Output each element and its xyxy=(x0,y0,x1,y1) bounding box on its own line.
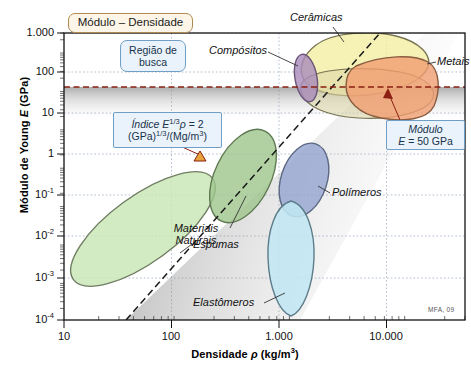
y-tick-1e-3-base: 10 xyxy=(35,271,47,283)
label-polimeros: Polímeros xyxy=(332,186,382,198)
material-index-line2: (GPa)1/3/(Mg/m3) xyxy=(128,130,207,142)
y-tick-1: 1 xyxy=(8,147,54,159)
y-tick-1e-1-base: 10 xyxy=(35,188,47,200)
x-axis-title-suffix: (kg/m xyxy=(258,348,291,360)
search-region-line2: busca xyxy=(139,56,167,68)
y-tick-1e-3: 10-3 xyxy=(8,271,54,283)
y-tick-1e-4-base: 10 xyxy=(35,313,47,325)
material-index-exp: 1/3 xyxy=(169,116,179,125)
label-espumas: Espumas xyxy=(193,238,239,250)
y-tick-100: 100 xyxy=(8,65,54,77)
modulus-constraint-callout[interactable]: Módulo E = 50 GPa xyxy=(386,120,465,150)
material-index-unit-b: /(Mg/m xyxy=(167,130,200,142)
y-tick-1e-1: 10-1 xyxy=(8,188,54,200)
bubble-metais[interactable] xyxy=(346,57,438,120)
y-tick-1000: 1.000 xyxy=(8,26,54,38)
x-axis-title-close: ) xyxy=(295,348,299,360)
y-tick-1e-3-exp: -3 xyxy=(47,269,54,278)
y-tick-1e-2-base: 10 xyxy=(35,229,47,241)
figure-signature: MFA, 09 xyxy=(428,306,454,313)
search-region-line1: Região de xyxy=(129,44,177,56)
material-index-callout[interactable]: Índice E1/3ρ = 2 (GPa)1/3/(Mg/m3) xyxy=(113,112,222,148)
x-tick-100: 100 xyxy=(141,330,201,342)
y-tick-1e-2-exp: -2 xyxy=(47,227,54,236)
y-axis-title-suffix: (GPa) xyxy=(18,77,30,110)
label-ceramicas: Cerâmicas xyxy=(290,11,343,23)
y-tick-1e-1-exp: -1 xyxy=(47,186,54,195)
y-axis-title: Módulo de Young E (GPa) xyxy=(18,75,30,215)
material-index-line1: Índice E1/3ρ = 2 xyxy=(131,118,203,130)
modulus-constraint-line2: E = 50 GPa xyxy=(398,135,453,147)
label-metais: Metais xyxy=(437,55,469,67)
y-tick-10: 10 xyxy=(8,106,54,118)
material-index-unit-a: (GPa) xyxy=(128,130,156,142)
label-compositos: Compósitos xyxy=(209,44,267,56)
x-axis-title: Densidade ρ (kg/m3) xyxy=(150,348,340,360)
chart-title-text: Módulo – Densidade xyxy=(78,16,184,30)
label-elastomeros: Elastômeros xyxy=(193,296,254,308)
material-index-unit-c: ) xyxy=(203,130,207,142)
x-tick-10: 10 xyxy=(34,330,94,342)
y-tick-1e-4: 10-4 xyxy=(8,313,54,325)
x-tick-10000: 10.000 xyxy=(356,330,416,342)
y-tick-1e-2: 10-2 xyxy=(8,229,54,241)
modulus-constraint-value: = 50 GPa xyxy=(405,135,453,147)
y-axis-title-prefix: Módulo de Young xyxy=(18,117,30,213)
y-axis-title-symbol: E xyxy=(18,110,30,117)
y-tick-1e-4-exp: -4 xyxy=(47,311,54,320)
label-materiais-naturais-line1: Materiais xyxy=(163,222,229,234)
chart-figure: 1.000 100 10 1 10-1 10-2 10-3 10-4 10 10… xyxy=(0,0,471,370)
search-region-callout[interactable]: Região de busca xyxy=(120,40,186,72)
chart-title-box[interactable]: Módulo – Densidade xyxy=(68,13,193,33)
material-index-unit-exp: 1/3 xyxy=(156,129,166,138)
modulus-constraint-line1: Módulo xyxy=(408,123,442,135)
x-tick-1000: 1.000 xyxy=(249,330,309,342)
x-axis-title-prefix: Densidade xyxy=(191,348,251,360)
x-axis-title-symbol: ρ xyxy=(251,348,258,360)
